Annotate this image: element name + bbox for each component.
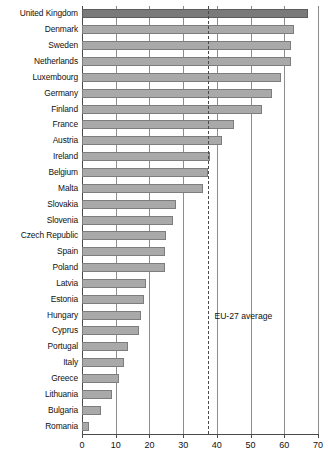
x-tick-30: [183, 434, 184, 438]
bar-united-kingdom: [82, 9, 308, 18]
bar-slovenia: [82, 216, 173, 225]
x-tick-0: [82, 434, 83, 438]
category-label-sweden: Sweden: [0, 41, 78, 50]
eu-27-average-line: [208, 6, 209, 434]
category-label-hungary: Hungary: [0, 311, 78, 320]
bar-malta: [82, 184, 203, 193]
category-label-poland: Poland: [0, 263, 78, 272]
bar-netherlands: [82, 57, 291, 66]
eu-27-average-label: EU-27 average: [214, 311, 272, 321]
category-label-czech-republic: Czech Republic: [0, 231, 78, 240]
category-label-latvia: Latvia: [0, 279, 78, 288]
category-label-slovenia: Slovenia: [0, 216, 78, 225]
bar-hungary: [82, 311, 141, 320]
x-tick-label-0: 0: [79, 440, 84, 451]
bar-lithuania: [82, 390, 112, 399]
category-label-netherlands: Netherlands: [0, 57, 78, 66]
category-axis-labels: United KingdomDenmarkSwedenNetherlandsLu…: [0, 6, 78, 434]
category-label-belgium: Belgium: [0, 168, 78, 177]
category-label-bulgaria: Bulgaria: [0, 406, 78, 415]
category-label-austria: Austria: [0, 136, 78, 145]
x-tick-20: [149, 434, 150, 438]
category-label-france: France: [0, 120, 78, 129]
category-label-cyprus: Cyprus: [0, 326, 78, 335]
bar-italy: [82, 358, 124, 367]
bar-bulgaria: [82, 406, 101, 415]
bar-belgium: [82, 168, 208, 177]
bar-romania: [82, 422, 89, 431]
x-tick-60: [284, 434, 285, 438]
gridline-50: [251, 6, 252, 434]
bar-greece: [82, 374, 119, 383]
category-label-ireland: Ireland: [0, 152, 78, 161]
category-label-finland: Finland: [0, 105, 78, 114]
bar-finland: [82, 105, 262, 114]
category-label-slovakia: Slovakia: [0, 200, 78, 209]
category-label-romania: Romania: [0, 422, 78, 431]
bar-sweden: [82, 41, 291, 50]
gridline-40: [217, 6, 218, 434]
x-tick-50: [251, 434, 252, 438]
bar-denmark: [82, 25, 294, 34]
category-label-spain: Spain: [0, 247, 78, 256]
category-label-united-kingdom: United Kingdom: [0, 9, 78, 18]
category-label-denmark: Denmark: [0, 25, 78, 34]
gridline-30: [183, 6, 184, 434]
bar-luxembourg: [82, 73, 281, 82]
x-tick-label-50: 50: [246, 440, 256, 451]
x-tick-label-60: 60: [279, 440, 289, 451]
bar-czech-republic: [82, 231, 166, 240]
category-label-lithuania: Lithuania: [0, 390, 78, 399]
bar-austria: [82, 136, 222, 145]
x-tick-label-10: 10: [111, 440, 121, 451]
x-tick-label-20: 20: [144, 440, 154, 451]
category-label-italy: Italy: [0, 358, 78, 367]
bar-spain: [82, 247, 165, 256]
bar-estonia: [82, 295, 144, 304]
category-label-malta: Malta: [0, 184, 78, 193]
plot-area: EU-27 average: [82, 6, 318, 434]
gridline-70: [318, 6, 319, 434]
bar-chart: United KingdomDenmarkSwedenNetherlandsLu…: [0, 0, 328, 464]
bar-germany: [82, 89, 272, 98]
x-tick-70: [318, 434, 319, 438]
bar-slovakia: [82, 200, 176, 209]
bar-poland: [82, 263, 165, 272]
x-tick-label-30: 30: [178, 440, 188, 451]
category-label-greece: Greece: [0, 374, 78, 383]
category-label-luxembourg: Luxembourg: [0, 73, 78, 82]
x-tick-label-70: 70: [313, 440, 323, 451]
category-label-germany: Germany: [0, 89, 78, 98]
gridline-60: [284, 6, 285, 434]
category-label-estonia: Estonia: [0, 295, 78, 304]
bar-france: [82, 120, 234, 129]
bar-portugal: [82, 342, 128, 351]
category-label-portugal: Portugal: [0, 342, 78, 351]
x-tick-40: [217, 434, 218, 438]
bar-cyprus: [82, 326, 139, 335]
bar-latvia: [82, 279, 146, 288]
x-tick-10: [116, 434, 117, 438]
bar-ireland: [82, 152, 210, 161]
x-tick-label-40: 40: [212, 440, 222, 451]
